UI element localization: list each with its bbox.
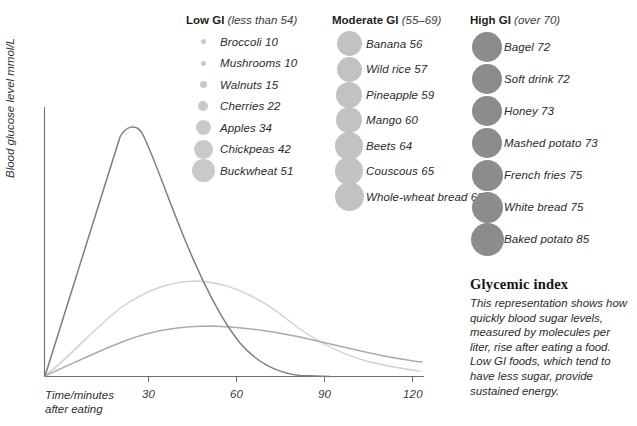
- glycemic-index-infographic: Blood glucose level mmol/L Time/minutes …: [0, 0, 637, 426]
- gi-bubble-cell: [470, 31, 504, 63]
- gi-value-bubble: [196, 120, 211, 135]
- gi-bubble-cell: [470, 159, 504, 191]
- gi-bubble-cell: [332, 57, 366, 83]
- gi-item-label: Pineapple 59: [366, 89, 434, 101]
- gi-bubble-cell: [186, 139, 220, 161]
- gi-column-low-header: Low GI (less than 54): [186, 14, 338, 26]
- gi-list-high: Bagel 72Soft drink 72Honey 73Mashed pota…: [470, 31, 630, 255]
- gi-item: Baked potato 85: [470, 223, 630, 255]
- gi-item: Mango 60: [332, 108, 482, 134]
- gi-bubble-cell: [470, 95, 504, 127]
- gi-bubble-cell: [332, 184, 366, 210]
- gi-item-label: Wild rice 57: [366, 63, 427, 75]
- gi-column-high-header: High GI (over 70): [470, 14, 630, 26]
- gi-item: Apples 34: [186, 117, 338, 139]
- gi-item-label: Buckwheat 51: [220, 165, 293, 177]
- gi-value-bubble: [336, 107, 362, 133]
- gi-value-bubble: [200, 81, 207, 88]
- gi-item-label: Broccoli 10: [220, 36, 278, 48]
- x-tick-label-30: 30: [142, 388, 155, 400]
- gi-list-low: Broccoli 10Mushrooms 10Walnuts 15Cherrie…: [186, 31, 338, 182]
- gi-item-label: Banana 56: [366, 38, 423, 50]
- gi-item: Pineapple 59: [332, 82, 482, 108]
- gi-value-bubble: [194, 140, 213, 159]
- gi-item-label: Couscous 65: [366, 165, 434, 177]
- gi-item: Banana 56: [332, 31, 482, 57]
- gi-item: Mushrooms 10: [186, 53, 338, 75]
- gi-column-low-range: (less than 54): [228, 14, 298, 26]
- gi-column-high-title: High GI: [470, 14, 511, 26]
- gi-item: Wild rice 57: [332, 57, 482, 83]
- gi-item: Cherries 22: [186, 96, 338, 118]
- gi-column-moderate-range: (55–69): [402, 14, 442, 26]
- gi-item: Buckwheat 51: [186, 160, 338, 182]
- gi-item: White bread 75: [470, 191, 630, 223]
- gi-bubble-cell: [186, 117, 220, 139]
- gi-item: Beets 64: [332, 133, 482, 159]
- gi-item-label: French fries 75: [504, 169, 582, 181]
- gi-value-bubble: [472, 192, 503, 223]
- gi-bubble-cell: [332, 108, 366, 134]
- gi-value-bubble: [198, 101, 208, 111]
- gi-item-label: Bagel 72: [504, 41, 550, 53]
- gi-bubble-cell: [332, 133, 366, 159]
- gi-value-bubble: [472, 160, 503, 191]
- gi-item: Whole-wheat bread 68: [332, 184, 482, 210]
- gi-bubble-cell: [470, 223, 504, 255]
- x-tick-label-120: 120: [403, 388, 423, 400]
- gi-column-low: Low GI (less than 54) Broccoli 10Mushroo…: [186, 14, 338, 182]
- gi-item-label: Baked potato 85: [504, 233, 589, 245]
- gi-item-label: White bread 75: [504, 201, 583, 213]
- gi-item-label: Mashed potato 73: [504, 137, 598, 149]
- gi-item: Mashed potato 73: [470, 127, 630, 159]
- gi-value-bubble: [201, 61, 206, 66]
- gi-value-bubble: [335, 132, 363, 160]
- gi-bubble-cell: [186, 31, 220, 53]
- gi-column-high-range: (over 70): [514, 14, 560, 26]
- x-tick-label-90: 90: [318, 388, 331, 400]
- gi-bubble-cell: [470, 127, 504, 159]
- gi-item-label: Cherries 22: [220, 100, 281, 112]
- gi-column-moderate-title: Moderate GI: [332, 14, 398, 26]
- gi-item: Soft drink 72: [470, 63, 630, 95]
- x-tick-label-60: 60: [230, 388, 243, 400]
- gi-item: Broccoli 10: [186, 31, 338, 53]
- gi-value-bubble: [336, 82, 362, 108]
- gi-item: Couscous 65: [332, 159, 482, 185]
- gi-item: Honey 73: [470, 95, 630, 127]
- gi-bubble-cell: [470, 191, 504, 223]
- gi-bubble-cell: [186, 74, 220, 96]
- gi-item: Walnuts 15: [186, 74, 338, 96]
- gi-bubble-cell: [470, 63, 504, 95]
- gi-item-label: Walnuts 15: [220, 79, 278, 91]
- curve-moderate-gi: [45, 281, 420, 376]
- gi-item-label: Soft drink 72: [504, 73, 570, 85]
- gi-value-bubble: [472, 64, 502, 94]
- gi-item: Bagel 72: [470, 31, 630, 63]
- gi-value-bubble: [472, 32, 502, 62]
- x-axis-title-line2: after eating: [45, 402, 165, 416]
- gi-item-label: Mushrooms 10: [220, 57, 297, 69]
- gi-value-bubble: [201, 39, 206, 44]
- gi-value-bubble: [192, 159, 215, 182]
- gi-value-bubble: [471, 223, 504, 256]
- gi-value-bubble: [472, 96, 502, 126]
- gi-value-bubble: [337, 31, 362, 56]
- gi-item-label: Beets 64: [366, 140, 412, 152]
- gi-item-label: Chickpeas 42: [220, 143, 291, 155]
- gi-column-moderate-header: Moderate GI (55–69): [332, 14, 482, 26]
- gi-bubble-cell: [186, 160, 220, 182]
- caption-title: Glycemic index: [470, 276, 630, 293]
- gi-bubble-cell: [186, 96, 220, 118]
- gi-value-bubble: [335, 157, 363, 185]
- gi-bubble-cell: [332, 82, 366, 108]
- caption-block: Glycemic index This representation shows…: [470, 276, 630, 398]
- gi-item: Chickpeas 42: [186, 139, 338, 161]
- caption-body: This representation shows how quickly bl…: [470, 296, 630, 398]
- gi-item: French fries 75: [470, 159, 630, 191]
- gi-column-low-title: Low GI: [186, 14, 224, 26]
- gi-item-label: Apples 34: [220, 122, 272, 134]
- gi-value-bubble: [335, 182, 364, 211]
- gi-bubble-cell: [186, 53, 220, 75]
- gi-column-high: High GI (over 70) Bagel 72Soft drink 72H…: [470, 14, 630, 255]
